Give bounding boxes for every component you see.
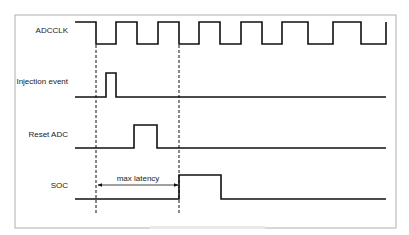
signal-label: ADCCLK (36, 26, 69, 35)
signal-waveform (75, 73, 386, 97)
max-latency-annotation: max latency (98, 174, 178, 185)
diagram-frame (15, 15, 396, 228)
timing-diagram: ADCCLKInjection eventReset ADCSOC max la… (0, 0, 409, 235)
signal-label: SOC (51, 181, 69, 190)
max-latency-label: max latency (117, 174, 160, 183)
figure-caption-illegible (150, 226, 265, 229)
signal-label: Injection event (16, 77, 68, 86)
signal-adcclk: ADCCLK (36, 22, 386, 44)
signal-waveform (75, 22, 386, 44)
signal-soc: SOC (51, 175, 386, 199)
signal-waveform (75, 125, 386, 148)
signal-injection-event: Injection event (16, 73, 386, 97)
signal-label: Reset ADC (28, 130, 68, 139)
signal-reset-adc: Reset ADC (28, 125, 386, 148)
